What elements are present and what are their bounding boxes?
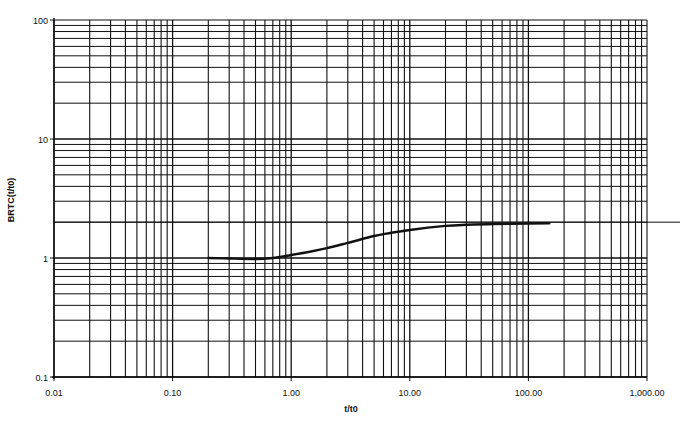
x-axis-title: t/t0 bbox=[344, 404, 358, 414]
x-tick-label: 10.00 bbox=[399, 388, 422, 398]
series-line bbox=[208, 223, 549, 259]
y-tick-label: 0.1 bbox=[35, 373, 48, 383]
x-tick-label: 100.00 bbox=[515, 388, 543, 398]
axes bbox=[52, 18, 647, 379]
x-tick-label: 1,000.00 bbox=[629, 388, 664, 398]
x-tick-label: 0.01 bbox=[45, 388, 63, 398]
y-axis-title: BRTC(t/t0) bbox=[6, 178, 16, 223]
y-axis-ticks: 0.1110100 bbox=[33, 16, 54, 383]
grid-lines bbox=[54, 20, 680, 377]
x-tick-label: 0.10 bbox=[164, 388, 182, 398]
y-tick-label: 1 bbox=[43, 254, 48, 264]
y-tick-label: 100 bbox=[33, 16, 48, 26]
y-tick-label: 10 bbox=[38, 135, 48, 145]
chart: 0.010.101.0010.00100.001,000.00 0.111010… bbox=[0, 0, 680, 428]
x-tick-label: 1.00 bbox=[282, 388, 300, 398]
x-axis-ticks: 0.010.101.0010.00100.001,000.00 bbox=[45, 377, 664, 398]
